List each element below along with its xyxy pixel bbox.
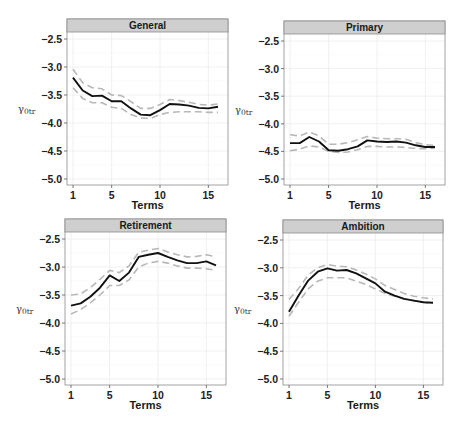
y-tick-label: −4.5: [258, 145, 279, 157]
y-tick-label: −4.0: [258, 118, 279, 130]
plot-area: [283, 233, 443, 385]
y-tick-label: −4.5: [257, 345, 278, 357]
y-tick-label: −3.5: [257, 290, 278, 302]
panel-title: Ambition: [341, 221, 384, 232]
x-tick-label: 1: [70, 189, 76, 201]
y-tick-label: −3.0: [41, 61, 62, 73]
y-tick-label: −5.0: [257, 373, 278, 385]
panel-primary: Primary−2.5−3.0−3.5−4.0−4.5−5.0151015Ter…: [235, 21, 445, 211]
y-tick-label: −4.0: [257, 317, 278, 329]
plot-area: [284, 34, 445, 185]
x-tick-label: 15: [202, 189, 214, 201]
x-axis-label: Terms: [348, 199, 380, 211]
y-tick-label: −3.0: [39, 261, 60, 273]
x-tick-label: 5: [324, 389, 330, 401]
x-tick-label: 1: [286, 389, 292, 401]
x-tick-label: 5: [109, 189, 115, 201]
y-tick-label: −5.0: [41, 173, 62, 185]
y-tick-label: −3.5: [39, 289, 60, 301]
x-tick-label: 15: [418, 389, 430, 401]
panel-general: General−2.5−3.0−3.5−4.0−4.5−5.0151015Ter…: [18, 19, 228, 211]
panel-ambition: Ambition−2.5−3.0−3.5−4.0−4.5−5.0151015Te…: [234, 220, 443, 411]
figure: General−2.5−3.0−3.5−4.0−4.5−5.0151015Ter…: [0, 0, 462, 429]
y-tick-label: −3.0: [257, 262, 278, 274]
panel-title: Primary: [346, 22, 384, 33]
panel-retirement: Retirement−2.5−3.0−3.5−4.0−4.5−5.0151015…: [16, 219, 226, 411]
y-axis-label: γ0tr: [234, 303, 252, 316]
y-tick-label: −2.5: [41, 33, 62, 45]
y-axis-label: γ0tr: [235, 104, 253, 117]
y-tick-label: −4.0: [39, 317, 60, 329]
y-axis-label: γ0tr: [18, 103, 36, 116]
y-tick-label: −5.0: [39, 373, 60, 385]
panel-title: General: [129, 20, 166, 31]
y-tick-label: −3.0: [258, 63, 279, 75]
x-tick-label: 15: [200, 389, 212, 401]
x-axis-label: Terms: [347, 399, 379, 411]
y-tick-label: −3.5: [41, 89, 62, 101]
y-tick-label: −4.5: [41, 145, 62, 157]
x-tick-label: 5: [107, 389, 113, 401]
y-tick-label: −2.5: [258, 35, 279, 47]
y-tick-label: −2.5: [257, 234, 278, 246]
x-axis-label: Terms: [129, 399, 161, 411]
x-tick-label: 5: [326, 189, 332, 201]
y-tick-label: −3.5: [258, 90, 279, 102]
x-axis-label: Terms: [131, 199, 163, 211]
y-tick-label: −4.0: [41, 117, 62, 129]
y-tick-label: −5.0: [258, 173, 279, 185]
y-axis-label: γ0tr: [16, 303, 34, 316]
y-tick-label: −4.5: [39, 345, 60, 357]
panel-title: Retirement: [119, 220, 172, 231]
x-tick-label: 1: [287, 189, 293, 201]
x-tick-label: 15: [419, 189, 431, 201]
x-tick-label: 1: [68, 389, 74, 401]
y-tick-label: −2.5: [39, 233, 60, 245]
